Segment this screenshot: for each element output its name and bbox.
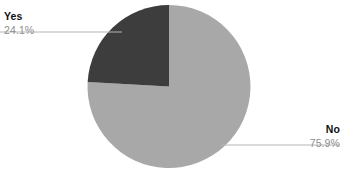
slice-label-no-category: No: [310, 124, 340, 135]
slice-label-no-percent: 75.9%: [310, 138, 340, 149]
pie-chart: Yes 24.1% No 75.9%: [0, 0, 340, 179]
slice-label-no: No 75.9%: [310, 124, 340, 149]
slice-label-yes-percent: 24.1%: [4, 25, 34, 36]
slice-label-yes: Yes 24.1%: [4, 11, 34, 36]
slice-label-yes-category: Yes: [4, 11, 34, 22]
pie-slice-yes[interactable]: [88, 5, 169, 87]
pie-chart-graphic: [0, 0, 340, 179]
